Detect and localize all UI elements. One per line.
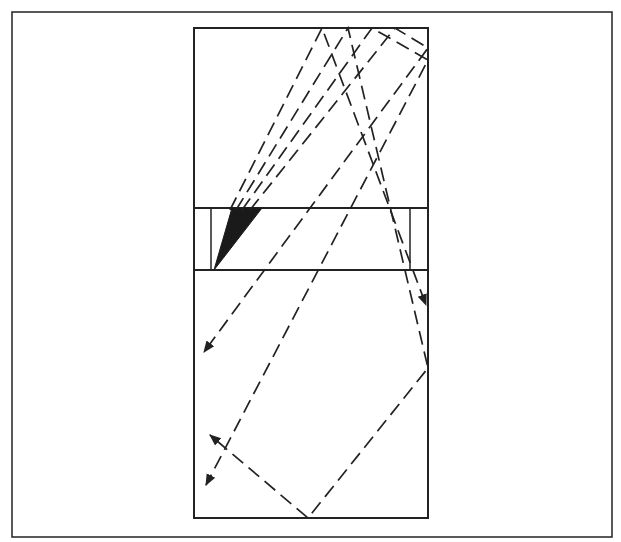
ray-4 (204, 28, 428, 352)
ray-3 (206, 28, 428, 485)
enclosure-box (194, 28, 428, 518)
wedge-source (214, 208, 262, 270)
ray-diagram (0, 0, 621, 542)
outer-frame (12, 12, 612, 537)
ray-1 (230, 28, 426, 305)
